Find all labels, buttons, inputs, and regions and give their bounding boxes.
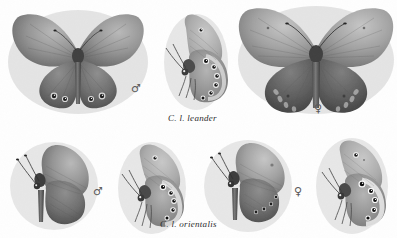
sex-symbol-bottom-female: ♀	[294, 186, 302, 197]
specimen-plate: ♂ ♀ ♂ ♀ C. l. leander C. l. orientalis	[0, 0, 397, 238]
specimen-leander-male-dorsal	[8, 10, 148, 114]
sex-symbol-top-female: ♀	[314, 103, 322, 114]
specimen-leander-female-dorsal	[238, 6, 394, 114]
specimen-orientalis-female-dorsal	[204, 140, 292, 232]
sex-symbol-top-male: ♂	[131, 83, 141, 94]
specimen-orientalis-female-ventral	[316, 138, 388, 234]
caption-leander: C. l. leander	[168, 113, 217, 123]
caption-orientalis: C. l. orientalis	[160, 219, 217, 229]
sex-symbol-bottom-male: ♂	[93, 186, 103, 197]
specimen-orientalis-male-dorsal	[10, 142, 98, 230]
specimen-leander-male-ventral	[164, 14, 228, 110]
